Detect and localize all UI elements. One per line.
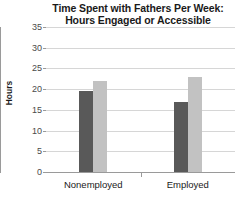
y-tick-mark (43, 68, 46, 69)
gridline (46, 110, 235, 111)
bar-employed-engaged (174, 102, 188, 172)
x-tick-label-nonemployed: Nonemployed (64, 179, 123, 190)
bar-nonemployed-accessible (93, 81, 107, 172)
bar-employed-accessible (188, 77, 202, 172)
gridline (46, 27, 235, 28)
gridline (46, 131, 235, 132)
x-tick-mark (141, 173, 142, 177)
y-tick-label: 30 (12, 43, 42, 53)
gridline (46, 48, 235, 49)
y-tick-label: 20 (12, 84, 42, 94)
gridline (46, 68, 235, 69)
y-tick-mark (43, 89, 46, 90)
y-tick-label: 0 (12, 167, 42, 177)
y-axis-spine (0, 27, 1, 173)
gridline (46, 151, 235, 152)
y-tick-label: 35 (12, 22, 42, 32)
y-tick-mark (43, 151, 46, 152)
y-tick-mark (43, 172, 46, 173)
chart-title-line-2: Hours Engaged or Accessible (38, 14, 238, 26)
y-tick-mark (43, 110, 46, 111)
bar-chart: Time Spent with Fathers Per Week: Hours … (0, 0, 239, 202)
y-tick-mark (43, 131, 46, 132)
plot-area (46, 27, 235, 172)
chart-title-line-1: Time Spent with Fathers Per Week: (38, 2, 238, 14)
bar-nonemployed-engaged (79, 91, 93, 172)
y-tick-mark (43, 27, 46, 28)
y-tick-label: 5 (12, 146, 42, 156)
gridline (46, 89, 235, 90)
y-tick-label: 15 (12, 105, 42, 115)
y-tick-mark (43, 48, 46, 49)
chart-title: Time Spent with Fathers Per Week: Hours … (38, 2, 238, 26)
x-tick-label-employed: Employed (167, 179, 209, 190)
y-tick-label: 10 (12, 126, 42, 136)
y-tick-label: 25 (12, 63, 42, 73)
